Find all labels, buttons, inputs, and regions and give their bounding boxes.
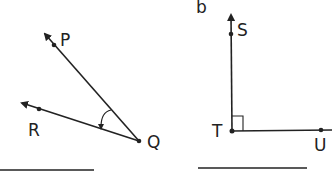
label-p: P: [60, 32, 70, 49]
point-u-dot: [319, 128, 324, 133]
point-q-dot: [137, 139, 142, 144]
label-t: T: [212, 123, 222, 140]
label-u: U: [314, 137, 326, 154]
angle-pqr: [0, 34, 141, 170]
ray-tu: [232, 130, 332, 131]
label-q: Q: [147, 134, 160, 151]
point-t-dot: [230, 129, 235, 134]
point-p-dot: [52, 43, 57, 48]
geometry-diagram: [0, 0, 332, 179]
angle-stu: [198, 15, 332, 168]
label-s: S: [237, 22, 248, 39]
point-s-dot: [229, 32, 234, 37]
label-r: R: [28, 122, 40, 139]
right-angle-mark: [232, 116, 243, 131]
angle-arc: [101, 110, 111, 127]
point-r-dot: [37, 107, 42, 112]
figure-label-b: b: [196, 0, 207, 16]
